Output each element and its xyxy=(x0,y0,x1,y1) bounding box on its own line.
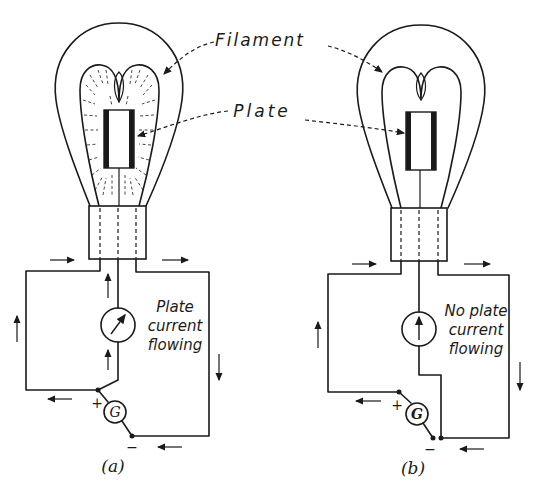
svg-text:No plate: No plate xyxy=(444,302,507,320)
plus-sign: + xyxy=(91,395,103,411)
circuit-left-wire xyxy=(328,261,401,392)
vacuum-tube-diagram: G + − Plate current flowing (a) xyxy=(0,0,534,491)
ammeter-deflected xyxy=(101,308,135,342)
generator-label: G xyxy=(109,404,120,420)
generator-label: G xyxy=(411,406,423,422)
ammeter-zero xyxy=(402,312,436,346)
filament-label: Filament xyxy=(215,30,305,50)
svg-text:current: current xyxy=(449,321,505,339)
status-text-b: No plate current flowing xyxy=(444,302,507,358)
generator: G + − xyxy=(91,388,138,456)
svg-text:Plate: Plate xyxy=(156,298,194,316)
plate xyxy=(406,112,436,170)
plate xyxy=(104,110,134,168)
caption-b: (b) xyxy=(401,458,425,478)
circuit-left-wire xyxy=(26,259,100,390)
svg-text:current: current xyxy=(148,317,204,335)
caption-a: (a) xyxy=(101,456,124,476)
filament-callout: Filament xyxy=(164,30,382,74)
plate-label: Plate xyxy=(233,101,291,121)
status-text-a: Plate current flowing xyxy=(148,298,204,354)
svg-text:flowing: flowing xyxy=(449,340,503,358)
plus-sign: + xyxy=(391,397,403,413)
minus-sign: − xyxy=(424,441,436,457)
panel-a: G + − Plate current flowing (a) xyxy=(17,23,219,476)
minus-sign: − xyxy=(126,439,138,455)
svg-text:flowing: flowing xyxy=(148,336,202,354)
panel-b: G + − No plate current flowing (b) xyxy=(318,25,520,478)
generator: G + − xyxy=(391,390,443,458)
